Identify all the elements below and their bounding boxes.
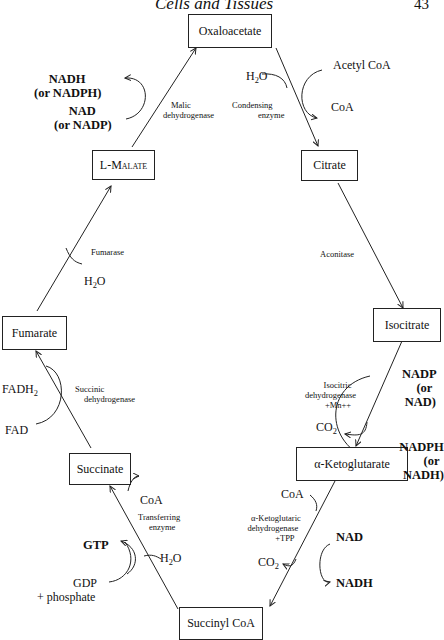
cofactor-h2o-condensing: H2O: [246, 69, 268, 88]
cofactor-coa-released-transfer: CoA: [140, 493, 163, 507]
cofactor-nadp-in: NADP (or NAD): [402, 367, 437, 409]
cofactor-coa-in-keto: CoA: [281, 487, 304, 501]
enzyme-malic-dehydrogenase: Malic dehydrogenase: [163, 100, 214, 120]
cofactor-nadh-out: NADH: [336, 576, 373, 590]
compound-isocitrate: Isocitrate: [373, 308, 441, 342]
cofactor-co2-keto: CO2: [258, 555, 279, 574]
cofactor-co2-isocitric: CO2: [316, 420, 337, 439]
cofactor-gdp-phosphate-in: GDP + phosphate: [37, 576, 97, 604]
enzyme-aconitase: Aconitase: [320, 249, 354, 259]
enzyme-isocitric-dehydrogenase: Isocitric dehydrogenase +Mn++: [305, 380, 356, 410]
compound-succinate: Succinate: [69, 453, 131, 485]
compound-oxaloacetate: Oxaloacetate: [188, 14, 272, 48]
enzyme-succinic-dehydrogenase: Succinic dehydrogenase: [75, 384, 135, 404]
cofactor-nadh-malic: NADH (or NADPH): [34, 72, 101, 100]
compound-fumarate: Fumarate: [2, 316, 67, 350]
cofactor-nad-in: NAD: [336, 530, 363, 544]
enzyme-fumarase: Fumarase: [91, 247, 124, 257]
cofactor-acetyl-coa: Acetyl CoA: [333, 58, 391, 72]
cofactor-fad-in: FAD: [5, 423, 28, 437]
cofactor-nadph-out: NADPH (or NADH): [399, 440, 444, 482]
cofactor-coa-released: CoA: [331, 100, 354, 114]
compound-alpha-ketoglutarate: α-Ketoglutarate: [296, 447, 408, 481]
cofactor-fadh2-out: FADH2: [2, 382, 38, 401]
cofactor-h2o-fumarase: H2O: [84, 274, 106, 293]
enzyme-condensing: Condensing enzyme: [232, 100, 284, 120]
compound-l-malate: L-Malate: [92, 150, 155, 180]
compound-citrate: Citrate: [301, 150, 358, 181]
enzyme-transferring: Transferring enzyme: [138, 512, 180, 532]
cofactor-h2o-transfer: H2O: [160, 551, 182, 570]
cofactor-gtp-out: GTP: [83, 538, 109, 552]
enzyme-alpha-ketoglutaric-dehydrogenase: α-Ketoglutaric dehydrogenase +TPP: [245, 513, 301, 543]
cofactor-nad-malic: NAD (or NADP): [54, 104, 112, 132]
compound-succinyl-coa: Succinyl CoA: [179, 607, 263, 640]
